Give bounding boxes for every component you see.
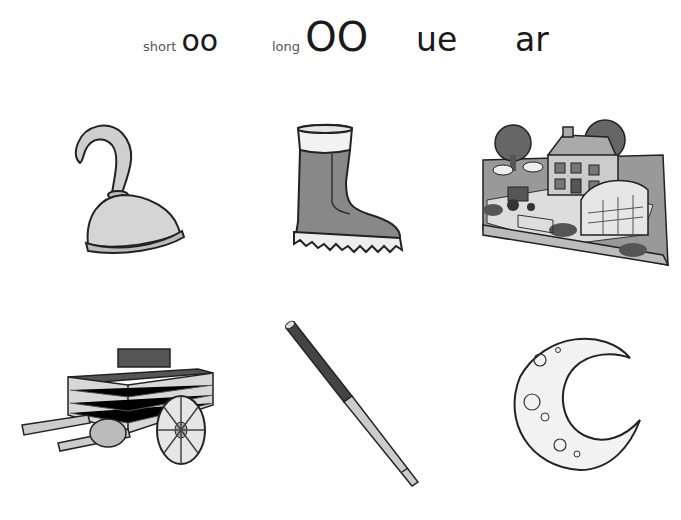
label-short: short [143,39,176,54]
picture-moon [510,332,645,472]
hook-icon [60,115,200,265]
phoneme-ar: ar [515,20,549,59]
crescent-moon-icon [510,332,645,472]
cart-icon [18,345,223,470]
picture-hook [60,115,200,265]
label-long: long [272,39,300,54]
header-ar: ar [515,23,549,56]
phoneme-long-oo: OO [305,14,368,60]
header-short-oo: short oo [143,26,218,56]
boot-icon [288,122,408,257]
picture-boot [288,122,408,257]
header-long-oo: long OO [272,17,368,57]
phoneme-short-oo: oo [182,23,219,58]
cue-stick-icon [280,318,425,493]
phoneme-ue: ue [416,20,457,59]
header-ue: ue [416,23,457,56]
farm-icon [473,115,673,275]
picture-cart [18,345,223,470]
picture-cue [280,318,425,493]
picture-farm [473,115,673,275]
